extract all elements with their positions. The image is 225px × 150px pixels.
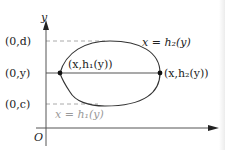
region-diagram: y x O (0,d) (0,y) (0,c) (x,h₁(y)) (x,h₂(… [0,0,225,150]
tick-label-y: (0,y) [5,67,30,80]
tick-label-d: (0,d) [5,35,31,48]
point-h1-label: (x,h₁(y)) [68,58,113,71]
point-h1 [58,71,63,76]
x-axis-arrow-icon [208,125,219,131]
point-h2-label: (x,h₂(y)) [164,67,209,80]
tick-label-c: (0,c) [5,98,30,111]
curve-h2-label: x = h₂(y) [142,36,191,49]
page-edge [219,0,225,150]
y-axis-label: y [40,11,48,24]
origin-label: O [34,131,43,144]
point-h2 [158,71,163,76]
curve-h1-label: x = h₁(y) [55,108,104,121]
